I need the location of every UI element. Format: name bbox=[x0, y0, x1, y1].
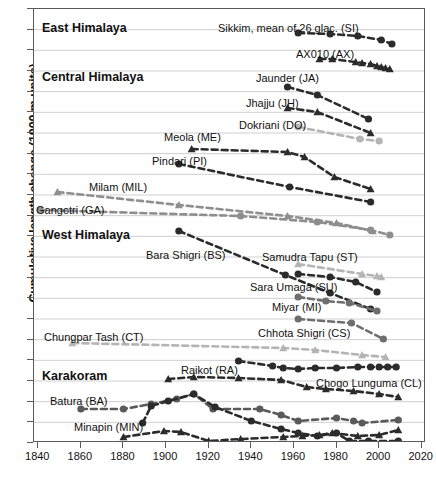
data-point bbox=[346, 299, 353, 306]
data-point bbox=[395, 416, 402, 423]
series-label-si: Sikkim, mean of 26 glac. (SI) bbox=[218, 22, 359, 34]
series-label-ba: Batura (BA) bbox=[50, 395, 107, 407]
series-label-cl: Chogo Lunguma (CL) bbox=[316, 377, 422, 389]
x-axis-tick-label: 1860 bbox=[68, 450, 92, 462]
y-axis-tick bbox=[27, 380, 33, 381]
series-line bbox=[72, 343, 385, 357]
data-point bbox=[386, 231, 393, 238]
data-point bbox=[295, 293, 302, 300]
y-axis-tick bbox=[27, 297, 33, 298]
data-point bbox=[211, 403, 218, 410]
series-label-bs: Bara Shigri (BS) bbox=[146, 249, 225, 261]
y-axis-tick bbox=[27, 49, 33, 50]
data-point bbox=[350, 417, 357, 424]
data-point bbox=[358, 419, 365, 426]
data-point bbox=[295, 365, 302, 372]
data-point bbox=[280, 364, 287, 371]
x-axis-tick-label: 1880 bbox=[110, 450, 134, 462]
series-line bbox=[298, 33, 392, 44]
series-label-me: Meola (ME) bbox=[164, 131, 221, 143]
data-point bbox=[120, 405, 127, 412]
y-axis-tick bbox=[27, 194, 33, 195]
series-label-pi: Pindari (PI) bbox=[152, 155, 207, 167]
data-point bbox=[354, 363, 361, 370]
series-label-min: Minapin (MIN) bbox=[74, 421, 143, 433]
x-axis-tick bbox=[208, 442, 209, 448]
data-point bbox=[284, 83, 291, 90]
x-axis-tick-label: 2020 bbox=[408, 450, 432, 462]
x-axis-tick bbox=[122, 442, 123, 448]
y-axis-tick bbox=[27, 421, 33, 422]
data-point bbox=[286, 183, 293, 190]
data-point bbox=[333, 414, 340, 421]
x-axis-tick-label: 1840 bbox=[25, 450, 49, 462]
y-axis-tick bbox=[27, 153, 33, 154]
data-point bbox=[378, 36, 385, 43]
y-axis-tick bbox=[27, 111, 33, 112]
data-point bbox=[278, 411, 285, 418]
data-point bbox=[327, 273, 334, 280]
data-point bbox=[165, 397, 172, 404]
data-point bbox=[380, 335, 387, 342]
series-line bbox=[298, 127, 379, 141]
x-axis-ticks bbox=[33, 442, 425, 450]
y-axis-tick bbox=[27, 277, 33, 278]
series-line bbox=[81, 394, 398, 423]
data-point bbox=[376, 363, 383, 370]
series-label-ga: Gangotri (GA) bbox=[36, 204, 104, 216]
data-point bbox=[333, 364, 340, 371]
data-point bbox=[367, 198, 374, 205]
data-point bbox=[237, 212, 244, 219]
y-axis-tick bbox=[27, 8, 33, 9]
y-axis-tick bbox=[27, 132, 33, 133]
x-axis-tick-label: 1960 bbox=[281, 450, 305, 462]
series-label-cs: Chhota Shigri (CS) bbox=[258, 327, 350, 339]
data-point bbox=[314, 91, 321, 98]
data-point bbox=[256, 405, 263, 412]
y-axis-tick bbox=[27, 173, 33, 174]
region-heading-east-himalaya: East Himalaya bbox=[42, 21, 127, 35]
x-axis-tick bbox=[293, 442, 294, 448]
region-heading-karakoram: Karakoram bbox=[42, 369, 107, 383]
plot-area: Sikkim, mean of 26 glac. (SI)AX010 (AX)J… bbox=[33, 8, 425, 442]
series-label-jh: Jhajju (JH) bbox=[246, 97, 299, 109]
y-axis-tick bbox=[27, 215, 33, 216]
data-point bbox=[269, 362, 276, 369]
y-axis-tick bbox=[27, 70, 33, 71]
x-axis-tick bbox=[378, 442, 379, 448]
y-axis-tick bbox=[27, 256, 33, 257]
x-axis-tick-label: 1920 bbox=[195, 450, 219, 462]
x-axis-tick bbox=[165, 442, 166, 448]
y-axis-tick bbox=[27, 401, 33, 402]
series-label-ra: Raikot (RA) bbox=[181, 364, 238, 376]
data-point bbox=[175, 227, 182, 234]
x-axis-tick-labels: 1840186018801900192019401960198020002020 bbox=[0, 450, 436, 470]
data-point bbox=[148, 402, 155, 409]
data-point bbox=[295, 270, 302, 277]
data-point bbox=[367, 226, 374, 233]
data-point bbox=[348, 319, 355, 326]
x-axis-tick-label: 1940 bbox=[238, 450, 262, 462]
series-label-ja: Jaunder (JA) bbox=[256, 72, 319, 84]
series-label-ax: AX010 (AX) bbox=[296, 48, 354, 60]
y-axis-tick bbox=[27, 359, 33, 360]
data-point bbox=[295, 417, 302, 424]
region-heading-central-himalaya: Central Himalaya bbox=[42, 70, 143, 84]
data-point bbox=[295, 315, 302, 322]
plot-wrapper: Sikkim, mean of 26 glac. (SI)AX010 (AX)J… bbox=[33, 8, 425, 442]
y-axis-tick bbox=[27, 29, 33, 30]
y-axis-tick bbox=[27, 318, 33, 319]
data-point bbox=[373, 307, 380, 314]
series-line bbox=[288, 87, 369, 119]
series-label-su: Sara Umaga (SU) bbox=[250, 281, 337, 293]
data-point bbox=[367, 363, 374, 370]
y-axis-tick bbox=[27, 235, 33, 236]
data-point bbox=[314, 218, 321, 225]
data-point bbox=[248, 417, 255, 424]
x-axis-tick bbox=[336, 442, 337, 448]
data-point bbox=[388, 40, 395, 47]
data-point bbox=[384, 363, 391, 370]
series-label-do: Dokriani (DO) bbox=[239, 119, 306, 131]
data-point bbox=[373, 288, 380, 295]
glacier-length-change-chart: Cumulative length change (1000 m units) … bbox=[0, 0, 436, 489]
